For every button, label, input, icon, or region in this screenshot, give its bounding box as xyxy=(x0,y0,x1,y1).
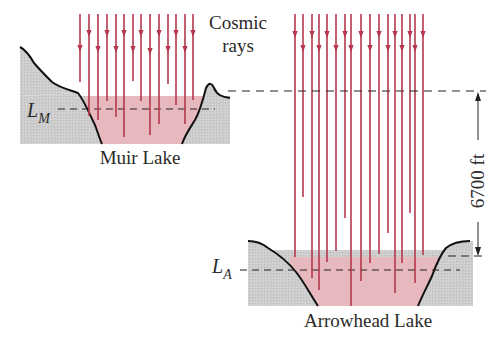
ray-arrowhead-icon xyxy=(138,30,143,37)
ray-arrowhead-icon xyxy=(190,30,195,37)
ray-arrowhead-icon xyxy=(385,45,390,52)
ray-arrowhead-icon xyxy=(104,30,109,37)
ray-arrowhead-icon xyxy=(348,45,353,52)
ray-arrowhead-icon xyxy=(130,46,135,53)
muir-level-main: L xyxy=(26,99,38,121)
ray-arrowhead-icon xyxy=(173,30,178,37)
ray-arrowhead-icon xyxy=(420,31,425,38)
ray-arrowhead-icon xyxy=(300,45,305,52)
arrowhead-level-subscript: A xyxy=(222,267,232,282)
muir-lake-group xyxy=(20,47,230,144)
ray-arrowhead-icon xyxy=(113,46,118,53)
cosmic-rays-label-line2: rays xyxy=(222,35,254,56)
cosmic-rays-label-line1: Cosmic xyxy=(209,12,267,33)
ray-arrowhead-icon xyxy=(182,46,187,53)
height-difference-label: 6700 ft xyxy=(467,153,488,208)
ray-arrowhead-icon xyxy=(147,48,152,55)
ray-arrowhead-icon xyxy=(358,31,363,38)
ray-arrowhead-icon xyxy=(333,45,338,52)
ray-arrowhead-icon xyxy=(367,45,372,52)
ray-arrowhead-icon xyxy=(95,46,100,53)
ray-arrowhead-icon xyxy=(407,31,412,38)
arrowhead-lake-label: Arrowhead Lake xyxy=(304,310,432,331)
arrowhead-level-main: L xyxy=(211,255,223,277)
ray-arrowhead-icon xyxy=(165,46,170,53)
arrowhead-lake-group xyxy=(240,241,473,306)
ray-arrowhead-icon xyxy=(412,45,417,52)
ray-arrowhead-icon xyxy=(309,31,314,38)
arrow-up-icon xyxy=(475,92,481,101)
ray-arrowhead-icon xyxy=(121,30,126,37)
ray-arrowhead-icon xyxy=(376,31,381,38)
ray-arrowhead-icon xyxy=(77,45,82,52)
muir-lake-label: Muir Lake xyxy=(100,147,181,168)
arrow-down-icon xyxy=(475,247,481,256)
height-dimension: 6700 ft xyxy=(467,92,488,256)
ray-arrowhead-icon xyxy=(292,31,297,38)
ray-arrowhead-icon xyxy=(342,31,347,38)
muir-level-subscript: M xyxy=(37,111,51,126)
ray-arrowhead-icon xyxy=(324,31,329,38)
ray-arrowhead-icon xyxy=(86,30,91,37)
ray-arrowhead-icon xyxy=(399,45,404,52)
ray-arrowhead-icon xyxy=(316,45,321,52)
ray-arrowhead-icon xyxy=(392,31,397,38)
arrowhead-level-label: LA xyxy=(211,255,232,282)
cosmic-ray-lake-diagram: 6700 ft Cosmic rays Muir Lake Arrowhead … xyxy=(0,0,502,345)
ray-arrowhead-icon xyxy=(156,30,161,37)
